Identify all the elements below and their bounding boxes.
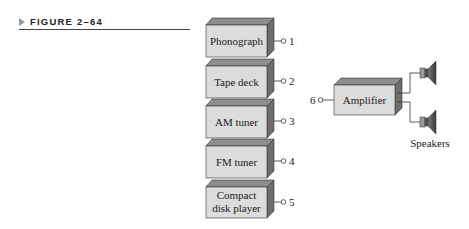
terminal-number: 4 [289,155,295,167]
source-box-tape-deck: Tape deck 2 [206,59,295,98]
terminal-icon [281,200,286,205]
speaker-icon [420,110,436,134]
terminal-icon [281,119,286,124]
amplifier-input-number: 6 [310,94,316,106]
source-box-am-tuner: AM tuner 3 [206,99,295,138]
source-label: Phonograph [210,35,264,47]
amplifier-label: Amplifier [343,94,387,106]
speaker-icon [420,61,436,85]
source-label-line2: disk player [212,202,261,214]
terminal-icon [281,39,286,44]
speakers-label: Speakers [410,137,450,149]
audio-system-diagram: Phonograph 1 Tape deck 2 AM tuner 3 FM t… [0,0,469,229]
amplifier-box: 6 Amplifier [310,78,402,115]
source-label: AM tuner [215,116,258,128]
source-label-line1: Compact [217,189,257,201]
terminal-icon [281,159,286,164]
terminal-icon [281,79,286,84]
source-label: Tape deck [214,76,259,88]
terminal-icon [318,98,323,103]
source-box-cd-player: Compact disk player 5 [206,180,295,218]
source-box-fm-tuner: FM tuner 4 [206,139,295,178]
terminal-number: 3 [289,115,295,127]
terminal-number: 5 [289,196,295,208]
source-box-phonograph: Phonograph 1 [206,18,295,57]
source-label: FM tuner [216,156,258,168]
terminal-number: 1 [289,35,295,47]
terminal-number: 2 [289,75,295,87]
